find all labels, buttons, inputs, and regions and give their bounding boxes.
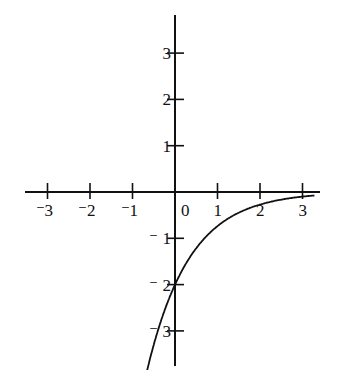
x-tick-labels: ⁻3⁻2⁻10123 <box>36 201 308 220</box>
x-tick-label: ⁻2 <box>78 201 96 220</box>
axes <box>25 15 320 366</box>
y-tick-label: ⁻ 1 <box>149 229 171 248</box>
x-tick-label: ⁻1 <box>121 201 139 220</box>
function-plot: ⁻3⁻2⁻10123 321⁻ 1⁻ 2⁻ 3 <box>0 0 338 370</box>
x-tick-label: 0 <box>181 201 190 220</box>
y-tick-label: ⁻ 2 <box>149 276 171 295</box>
y-tick-label: 1 <box>163 137 172 156</box>
x-tick-label: 3 <box>299 201 308 220</box>
y-tick-label: 3 <box>163 44 172 63</box>
x-tick-label: 1 <box>214 201 223 220</box>
function-curve <box>147 196 315 370</box>
y-tick-label: 2 <box>163 90 172 109</box>
x-tick-label: ⁻3 <box>36 201 54 220</box>
